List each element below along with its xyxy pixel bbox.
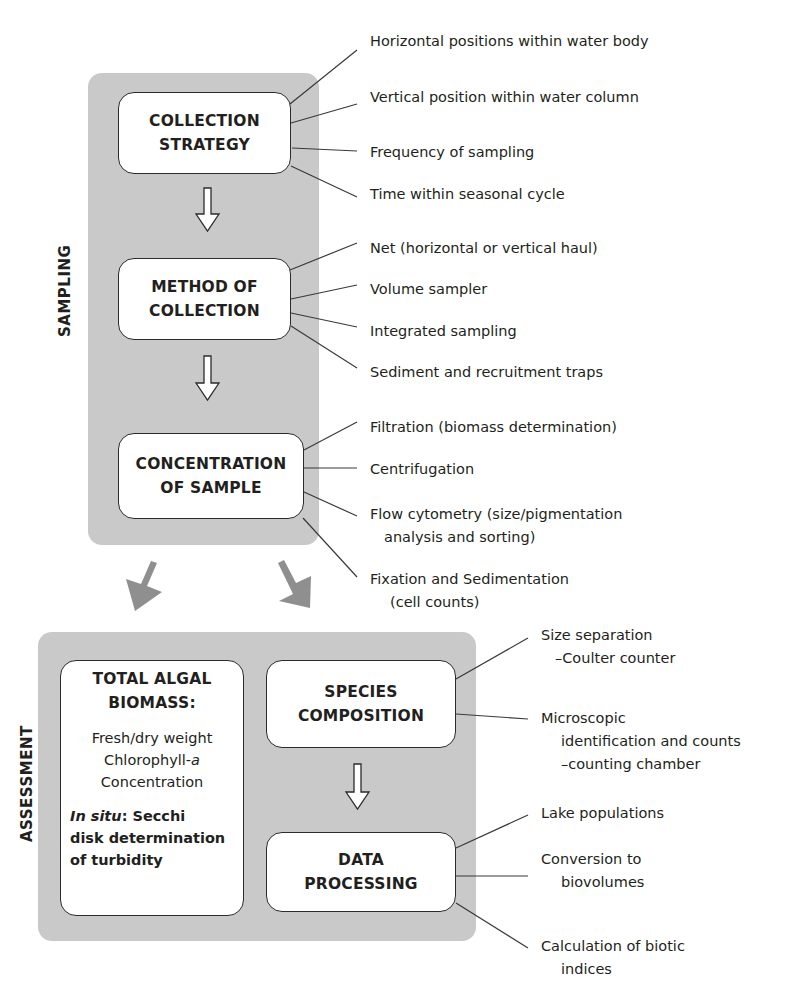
note-fixation: Fixation and Sedimentation (cell counts): [370, 568, 569, 614]
size-separation-line1: Size separation: [541, 627, 653, 643]
total-algal-biomass-box: TOTAL ALGAL BIOMASS: Fresh/dry weight Ch…: [60, 660, 244, 916]
processing-title-2: PROCESSING: [304, 872, 418, 896]
note-microscopic: Microscopic identification and counts –c…: [541, 707, 741, 776]
biomass-fresh-dry: Fresh/dry weight: [92, 727, 213, 749]
biomass-chlorophyll: Chlorophyll-a: [104, 749, 200, 771]
note-flow-cytometry: Flow cytometry (size/pigmentation analys…: [370, 503, 622, 549]
biomass-concentration: Concentration: [101, 771, 204, 793]
note-vertical-position: Vertical position within water column: [370, 86, 639, 109]
biomass-title-1: TOTAL ALGAL: [92, 667, 211, 691]
insitu-rest: : Secchi: [122, 808, 186, 824]
microscopic-line1: Microscopic: [541, 710, 626, 726]
note-conversion-biovolumes: Conversion to biovolumes: [541, 848, 644, 894]
species-composition-box: SPECIES COMPOSITION: [266, 660, 456, 748]
species-title-1: SPECIES: [324, 680, 397, 704]
note-net: Net (horizontal or vertical haul): [370, 237, 598, 260]
note-biotic-indices: Calculation of biotic indices: [541, 935, 685, 981]
biotic-line1: Calculation of biotic: [541, 938, 685, 954]
data-processing-box: DATA PROCESSING: [266, 832, 456, 912]
biotic-line2: indices: [541, 958, 685, 981]
biomass-insitu: In situ: Secchi disk determination of tu…: [61, 805, 225, 871]
concentration-title-2: OF SAMPLE: [160, 476, 261, 500]
note-centrifugation: Centrifugation: [370, 458, 474, 481]
insitu-italic: In situ: [70, 808, 122, 824]
note-volume-sampler: Volume sampler: [370, 278, 487, 301]
conversion-line2: biovolumes: [541, 871, 644, 894]
species-title-2: COMPOSITION: [298, 704, 424, 728]
note-frequency: Frequency of sampling: [370, 141, 534, 164]
note-time-seasonal: Time within seasonal cycle: [370, 183, 565, 206]
microscopic-line2: identification and counts: [541, 730, 741, 753]
biomass-title-2: BIOMASS:: [108, 691, 196, 715]
flow-cytometry-line1: Flow cytometry (size/pigmentation: [370, 506, 622, 522]
concentration-title-1: CONCENTRATION: [136, 452, 287, 476]
note-lake-populations: Lake populations: [541, 802, 664, 825]
note-integrated-sampling: Integrated sampling: [370, 320, 517, 343]
note-horizontal-positions: Horizontal positions within water body: [370, 30, 649, 53]
collection-strategy-title-2: STRATEGY: [159, 133, 250, 157]
concentration-box: CONCENTRATION OF SAMPLE: [118, 433, 304, 519]
note-sediment-traps: Sediment and recruitment traps: [370, 361, 603, 384]
method-of-collection-box: METHOD OF COLLECTION: [118, 258, 291, 340]
insitu-line2: disk determination: [70, 830, 225, 846]
size-separation-line2: –Coulter counter: [541, 647, 675, 670]
processing-title-1: DATA: [338, 848, 384, 872]
method-title-1: METHOD OF: [151, 275, 258, 299]
collection-strategy-title-1: COLLECTION: [149, 109, 260, 133]
flow-cytometry-line2: analysis and sorting): [370, 526, 622, 549]
conversion-line1: Conversion to: [541, 851, 641, 867]
note-size-separation: Size separation –Coulter counter: [541, 624, 675, 670]
note-filtration: Filtration (biomass determination): [370, 416, 617, 439]
chlorophyll-a-italic: a: [191, 752, 200, 768]
chlorophyll-text: Chlorophyll-: [104, 752, 191, 768]
insitu-line3: of turbidity: [70, 852, 163, 868]
gray-arrows: [126, 560, 311, 611]
fixation-line2: (cell counts): [370, 591, 569, 614]
fixation-line1: Fixation and Sedimentation: [370, 571, 569, 587]
collection-strategy-box: COLLECTION STRATEGY: [118, 92, 291, 174]
method-title-2: COLLECTION: [149, 299, 260, 323]
microscopic-line3: –counting chamber: [541, 753, 741, 776]
